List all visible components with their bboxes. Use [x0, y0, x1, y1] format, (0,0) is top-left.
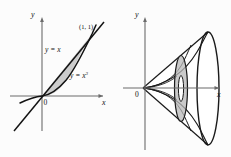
curve-label-y-equals-x-cubed: y = x3: [69, 71, 88, 80]
left-plot-svg: y x 0 y = x y = x3 (1, 1): [0, 0, 115, 157]
left-x-axis-label: x: [101, 98, 106, 107]
curve-label-base: y = x: [69, 71, 86, 80]
left-origin-label: 0: [44, 98, 48, 107]
left-y-axis-label: y: [30, 10, 35, 19]
panel-region-between-curves: y x 0 y = x y = x3 (1, 1): [0, 0, 115, 157]
y-axis-arrow-icon: [40, 17, 44, 22]
right-origin-label: 0: [135, 90, 139, 99]
line-label-y-equals-x: y = x: [44, 45, 61, 54]
right-y-axis-arrow-icon: [143, 17, 147, 22]
right-plot-svg: y x 0: [115, 0, 231, 157]
curve-label-exponent: 3: [85, 71, 88, 76]
right-x-axis-label: x: [216, 90, 221, 99]
right-y-axis-label: y: [134, 10, 139, 19]
curve-y-equals-x-cubed: [20, 25, 96, 103]
panel-solid-of-revolution: y x 0: [115, 0, 231, 157]
calculus-figure: y x 0 y = x y = x3 (1, 1): [0, 0, 231, 157]
shaded-region-between-curves: [42, 34, 92, 96]
intersection-point-label: (1, 1): [79, 23, 93, 31]
